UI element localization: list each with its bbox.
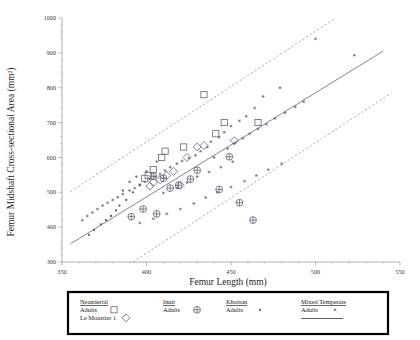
y-tick-label: 400 (47, 223, 56, 230)
marker-small-dot (105, 219, 107, 221)
y-tick-label: 600 (47, 154, 56, 161)
marker-small-dot (145, 170, 147, 172)
x-tick-label: 400 (142, 268, 151, 275)
x-tick-label: 500 (311, 268, 320, 275)
marker-small-dot (118, 204, 120, 206)
x-tick-label: 350 (57, 268, 66, 275)
legend: NeandertalAdultsLe Moustier 1InuitAdults… (68, 292, 388, 334)
marker-small-dot (100, 223, 102, 225)
marker-small-dot (125, 199, 127, 201)
legend-column-header: Mixed Temperate (301, 298, 346, 305)
scatter-plot-figure: 3004005006007008009001000 35040045050055… (0, 0, 420, 340)
x-axis-title: Femur Length (mm) (189, 277, 267, 288)
figure-background (0, 0, 420, 340)
marker-small-dot (93, 229, 95, 231)
marker-small-dot (122, 189, 124, 191)
y-tick-label: 700 (47, 119, 56, 126)
y-axis-title: Femur Midshaft Cross-sectional Area (mm²… (6, 67, 17, 236)
legend-column-header: Khoisan (226, 298, 248, 305)
legend-entry-label: Adults (301, 306, 319, 313)
y-tick-label: 500 (47, 188, 56, 195)
legend-column-header: Inuit (163, 298, 175, 305)
marker-small-dot (155, 160, 157, 162)
y-tick-label: 1000 (44, 14, 56, 21)
y-tick-label: 900 (47, 49, 56, 56)
marker-small-dot (110, 215, 112, 217)
y-tick-label: 300 (47, 258, 56, 265)
x-tick-label: 550 (395, 268, 404, 275)
legend-column-header: Neandertal (80, 298, 108, 305)
marker-small-dot (88, 234, 90, 236)
marker-small-dot (259, 309, 261, 311)
marker-small-dot (128, 181, 130, 183)
legend-entry-label: Adults (226, 306, 244, 313)
marker-small-dot (115, 209, 117, 211)
marker-small-dot (132, 191, 134, 193)
legend-entry-label: Le Moustier 1 (80, 314, 116, 321)
legend-entry-label: Adults (80, 306, 98, 313)
marker-small-dot (135, 175, 137, 177)
y-tick-label: 800 (47, 84, 56, 91)
x-tick-label: 450 (226, 268, 235, 275)
legend-entry-label: Adults (163, 306, 181, 313)
